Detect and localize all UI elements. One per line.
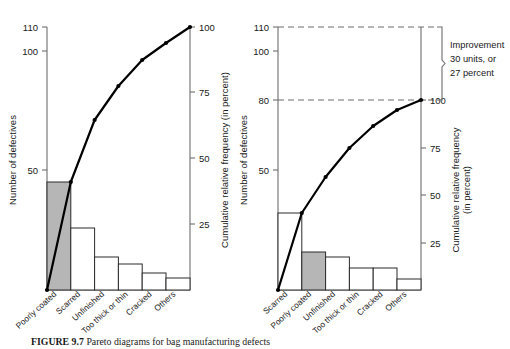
left-y2tick-label-100: 100 (199, 22, 215, 33)
figure-caption-label: FIGURE 9.7 (31, 336, 84, 347)
bar-others (166, 278, 190, 290)
left-ytick-label-110: 110 (23, 22, 38, 33)
cum-point-1 (69, 180, 73, 184)
left-ytick-label-100: 100 (22, 46, 38, 57)
left-y2tick-label-75: 75 (199, 87, 210, 98)
pareto-figure: 110 100 50 Number of defectives 100 75 5… (0, 0, 510, 349)
left-ytick-label-50: 50 (27, 165, 38, 176)
cum-point-after-5 (395, 108, 399, 112)
cat-label-poorly-coated: Poorly coated (14, 289, 59, 331)
right-ytick-label-50: 50 (258, 165, 269, 176)
chart-pareto-after: 110 100 80 50 Number of defectives 100 7… (238, 22, 505, 336)
cum-point-6 (188, 25, 192, 29)
improvement-annotation-line2: 30 units, or (450, 54, 496, 64)
cum-point-4 (140, 58, 144, 62)
right-ytick-label-100: 100 (253, 46, 269, 57)
right-y2tick-label-25: 25 (430, 238, 441, 249)
cum-point-5 (164, 41, 168, 45)
bar-scarred (71, 228, 95, 290)
cat-label-after-cracked: Cracked (355, 289, 385, 318)
right-y2tick-label-75: 75 (430, 143, 441, 154)
cum-point-2 (93, 118, 97, 122)
bar-unfinished (95, 257, 119, 290)
bar-too-thick-or-thin-after (349, 268, 373, 290)
right-y2-axis-title-line2: (in percent) (461, 166, 472, 214)
bar-cracked (142, 273, 166, 290)
cum-point-after-1 (300, 211, 304, 215)
left-y2tick-label-50: 50 (199, 153, 210, 164)
cat-label-after-others: Others (383, 289, 408, 313)
right-ytick-label-80: 80 (258, 95, 269, 106)
cum-point-after-3 (347, 146, 351, 150)
figure-caption-text: Pareto diagrams for bag manufacturing de… (86, 336, 270, 347)
left-y2-axis-title: Cumulative relative frequency (in percen… (219, 72, 230, 248)
cum-point-3 (116, 84, 120, 88)
figure-canvas: 110 100 50 Number of defectives 100 75 5… (0, 0, 510, 349)
left-y2tick-label-25: 25 (199, 219, 210, 230)
left-y-axis-title: Number of defectives (7, 115, 18, 205)
improvement-annotation-line1: Improvement (450, 40, 505, 50)
right-ytick-label-110: 110 (254, 22, 269, 33)
chart-pareto-before: 110 100 50 Number of defectives 100 75 5… (7, 22, 230, 336)
cum-point-after-6 (419, 98, 423, 102)
bar-poorly-coated-after (302, 252, 326, 290)
bar-too-thick-or-thin (118, 264, 142, 290)
cat-label-cracked: Cracked (124, 289, 154, 318)
right-y2-axis-title-line1: Cumulative relative frequency (450, 127, 461, 252)
improvement-annotation-line3: 27 percent (450, 68, 494, 78)
figure-caption: FIGURE 9.7 Pareto diagrams for bag manuf… (31, 336, 270, 347)
right-y2tick-label-50: 50 (430, 190, 441, 201)
cum-point-after-2 (324, 175, 328, 179)
cum-point-after-4 (371, 124, 375, 128)
bar-others-after (397, 279, 421, 290)
right-y-axis-title: Number of defectives (238, 115, 249, 205)
bar-cracked-after (373, 268, 397, 290)
improvement-brace (437, 27, 445, 100)
cat-label-others: Others (152, 289, 177, 313)
bar-unfinished-after (326, 257, 350, 290)
